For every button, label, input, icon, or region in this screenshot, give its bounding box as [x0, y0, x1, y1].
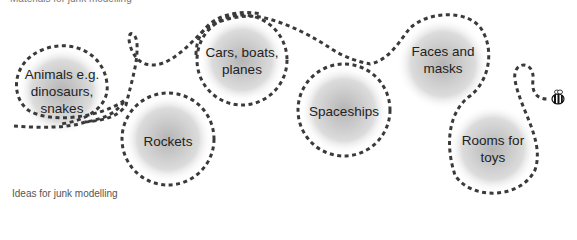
bubble-line: Faces and	[411, 43, 474, 60]
bubble-line: Cars, boats,	[206, 44, 279, 61]
bubble-line: planes	[206, 61, 279, 78]
bubble-cars: Cars, boats, planes	[206, 44, 279, 78]
bubble-line: Rockets	[144, 133, 193, 150]
bubble-line: dinosaurs,	[25, 83, 99, 100]
bubble-line: masks	[411, 60, 474, 77]
bubble-animals: Animals e.g. dinosaurs, snakes	[25, 66, 99, 117]
bubble-line: Spaceships	[309, 103, 379, 120]
bubble-line: toys	[462, 149, 524, 166]
bubble-faces: Faces and masks	[411, 43, 474, 77]
bubble-line: snakes	[25, 100, 99, 117]
bubble-line: Rooms for	[462, 132, 524, 149]
bubble-rooms: Rooms for toys	[462, 132, 524, 166]
bottom-caption: Ideas for junk modelling	[12, 188, 118, 199]
bubble-spaceships: Spaceships	[309, 103, 379, 120]
bubble-line: Animals e.g.	[25, 66, 99, 83]
bee-icon	[552, 90, 564, 104]
bubble-rockets: Rockets	[144, 133, 193, 150]
